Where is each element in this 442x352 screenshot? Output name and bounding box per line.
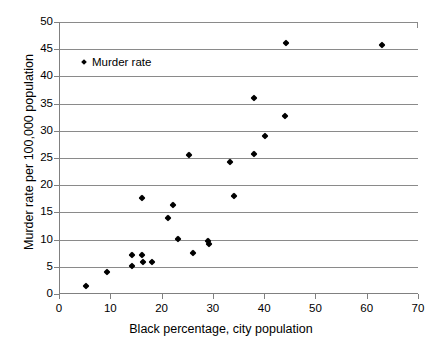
x-axis-tick-mark <box>264 294 265 299</box>
y-axis-tick-mark <box>54 240 59 241</box>
y-axis-tick-mark <box>54 131 59 132</box>
data-point <box>190 250 197 257</box>
y-axis-tick-mark <box>54 76 59 77</box>
data-point <box>250 94 257 101</box>
data-point <box>205 240 212 247</box>
y-axis-tick-mark <box>54 267 59 268</box>
y-axis-tick-label: 10 <box>13 234 53 246</box>
x-axis-tick-mark <box>418 294 419 299</box>
gridline-y <box>60 49 418 50</box>
legend-marker-diamond-icon <box>81 59 87 65</box>
legend-entry-label: Murder rate <box>92 56 151 68</box>
data-point <box>128 251 135 258</box>
y-axis-tick-label: 5 <box>13 261 53 273</box>
gridline-y <box>60 76 418 77</box>
data-point <box>231 193 238 200</box>
y-axis-tick-label: 50 <box>13 16 53 28</box>
x-axis-tick-mark <box>162 294 163 299</box>
x-axis-tick-label: 30 <box>193 303 233 315</box>
x-axis-tick-label: 50 <box>295 303 335 315</box>
y-axis-tick-label: 45 <box>13 43 53 55</box>
x-axis-tick-mark <box>315 294 316 299</box>
data-point <box>261 133 268 140</box>
data-point <box>282 39 289 46</box>
y-axis-tick-mark <box>54 22 59 23</box>
data-point <box>140 258 147 265</box>
x-axis-tick-label: 10 <box>90 303 130 315</box>
y-axis-tick-mark <box>54 212 59 213</box>
gridline-y <box>60 22 418 23</box>
data-point <box>227 159 234 166</box>
y-axis-tick-label: 15 <box>13 206 53 218</box>
y-axis-tick-label: 35 <box>13 98 53 110</box>
y-axis-tick-label: 0 <box>13 288 53 300</box>
x-axis-tick-label: 20 <box>142 303 182 315</box>
gridline-y <box>60 240 418 241</box>
data-point <box>149 259 156 266</box>
gridline-y <box>60 158 418 159</box>
y-axis-tick-mark <box>54 49 59 50</box>
y-axis-tick-mark <box>54 158 59 159</box>
data-point <box>104 269 111 276</box>
y-axis-tick-mark <box>54 104 59 105</box>
y-axis-tick-label: 20 <box>13 179 53 191</box>
x-axis-tick-label: 70 <box>398 303 438 315</box>
x-axis-tick-mark <box>367 294 368 299</box>
data-point <box>170 202 177 209</box>
x-axis-tick-mark <box>110 294 111 299</box>
data-point <box>164 214 171 221</box>
x-axis-tick-mark <box>59 294 60 299</box>
data-point <box>129 263 136 270</box>
gridline-y <box>60 131 418 132</box>
gridline-y <box>60 212 418 213</box>
data-point <box>379 42 386 49</box>
data-point <box>282 112 289 119</box>
gridline-y <box>60 185 418 186</box>
scatter-chart: Murder rate per 100,000 population Black… <box>0 0 442 352</box>
data-point <box>82 282 89 289</box>
y-axis-tick-label: 25 <box>13 152 53 164</box>
y-axis-tick-label: 30 <box>13 125 53 137</box>
x-axis-tick-label: 0 <box>39 303 79 315</box>
data-point <box>138 194 145 201</box>
y-axis-tick-mark <box>54 185 59 186</box>
x-axis-tick-label: 40 <box>244 303 284 315</box>
gridline-y <box>60 267 418 268</box>
x-axis-tick-label: 60 <box>347 303 387 315</box>
data-point <box>175 235 182 242</box>
gridline-y <box>60 104 418 105</box>
x-axis-tick-mark <box>213 294 214 299</box>
y-axis-tick-label: 40 <box>13 70 53 82</box>
x-axis-title: Black percentage, city population <box>0 322 442 336</box>
legend: Murder rate <box>82 56 151 68</box>
data-point <box>251 150 258 157</box>
